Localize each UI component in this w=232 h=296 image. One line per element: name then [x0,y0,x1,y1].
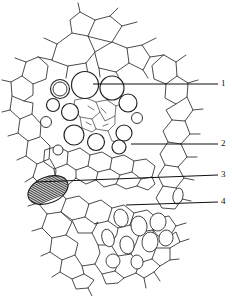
metaxylem-vessel-7 [88,134,105,151]
upper-parenchyma-network [38,3,164,80]
protoxylem-vessel [47,99,60,112]
metaxylem-vessel-5 [62,104,79,121]
metaxylem-vessel-3 [100,76,124,100]
metaxylem-vessel-9 [112,140,126,154]
callout-label-2: 2 [221,139,226,148]
callout-label-4: 4 [221,197,226,206]
callout-label-3: 3 [221,170,226,179]
metaxylem-vessel-8 [116,125,132,141]
callout-label-1: 1 [221,79,226,88]
leader-line-4 [126,202,218,205]
metaxylem-vessel-6 [64,125,84,145]
metaxylem-vessel-4 [119,94,137,112]
vascular-bundle-diagram [0,0,232,296]
metaxylem-vessel-2 [72,72,99,99]
right-flank-parenchyma [152,55,203,209]
figure-root: 1 2 3 4 [0,0,232,296]
annular-thickened-vessel [0,170,74,218]
lower-oval-cells [100,187,185,270]
